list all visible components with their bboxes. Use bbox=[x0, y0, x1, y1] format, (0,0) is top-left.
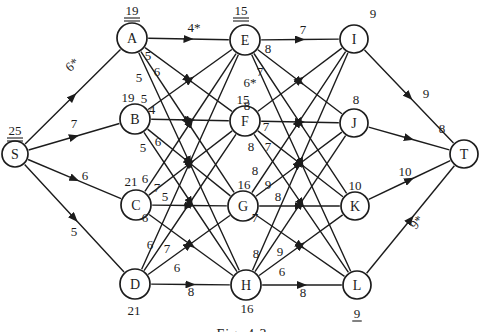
edge-D-G bbox=[148, 215, 230, 274]
labels-layer: 6*7654*5655465675667687876*8778898789689… bbox=[7, 3, 445, 321]
node-letter-L: L bbox=[353, 278, 362, 293]
node-value-L: 9 bbox=[354, 306, 361, 321]
node-letter-A: A bbox=[127, 31, 138, 46]
edge-label-E-K: 7 bbox=[257, 64, 264, 79]
edge-label-B-G: 6 bbox=[155, 134, 162, 149]
edge-F-J bbox=[261, 121, 339, 122]
edge-label-S-D: 5 bbox=[71, 224, 78, 239]
edge-label-D-H: 8 bbox=[188, 284, 195, 299]
node-letter-S: S bbox=[11, 147, 19, 162]
edge-label-H-L: 8 bbox=[300, 285, 307, 300]
edge-label-E-J: 8 bbox=[265, 41, 272, 56]
node-letter-E: E bbox=[241, 33, 250, 48]
edge-C-G bbox=[152, 205, 227, 206]
edges-layer bbox=[25, 38, 455, 285]
edge-label-A-H: 5 bbox=[136, 70, 143, 85]
edge-label-C-H: 6 bbox=[142, 210, 149, 225]
node-value-S: 25 bbox=[9, 123, 22, 138]
node-value-C: 21 bbox=[125, 174, 138, 189]
node-value-A: 19 bbox=[126, 3, 139, 18]
edge-B-F bbox=[151, 119, 229, 120]
edge-label-C-E: 6 bbox=[142, 171, 149, 186]
node-letter-C: C bbox=[131, 198, 140, 213]
edge-label-F-K: 7 bbox=[265, 139, 272, 154]
edge-label-D-E: 6 bbox=[147, 237, 154, 252]
node-letter-I: I bbox=[352, 32, 357, 47]
node-value-F: 15 bbox=[237, 92, 250, 107]
edge-label-D-G: 6 bbox=[174, 260, 181, 275]
edge-label-G-K: 8 bbox=[275, 189, 282, 204]
edge-label-E-I: 7 bbox=[300, 22, 307, 37]
node-value-I: 9 bbox=[370, 6, 377, 21]
edge-label-B-H: 5 bbox=[140, 140, 147, 155]
node-letter-H: H bbox=[241, 278, 251, 293]
edge-label-E-L: 6* bbox=[244, 75, 257, 90]
node-value-J: 8 bbox=[353, 92, 360, 107]
edge-label-F-J: 7 bbox=[263, 119, 270, 134]
node-letter-D: D bbox=[130, 277, 140, 292]
graph-canvas: SABCDEFGHIJKLT 6*7654*565546567566768787… bbox=[0, 0, 484, 332]
edge-label-G-J: 9 bbox=[265, 177, 272, 192]
edge-label-S-A: 6* bbox=[62, 55, 82, 75]
node-value-E: 15 bbox=[235, 3, 248, 18]
node-value-B: 19 bbox=[122, 90, 135, 105]
edge-E-I bbox=[261, 39, 339, 40]
edge-label-C-G: 5 bbox=[162, 189, 169, 204]
node-value-D: 21 bbox=[128, 303, 141, 318]
edge-label-A-E: 4* bbox=[188, 20, 201, 35]
edge-label-S-B: 7 bbox=[71, 116, 78, 131]
edge-S-D bbox=[25, 164, 124, 272]
edge-label-J-T: 8 bbox=[439, 121, 446, 136]
edge-label-K-T: 10 bbox=[399, 164, 412, 179]
edge-label-D-F: 7 bbox=[164, 241, 171, 256]
node-letter-G: G bbox=[238, 199, 248, 214]
node-letter-J: J bbox=[351, 116, 357, 131]
edge-H-I bbox=[253, 53, 348, 270]
node-value-H: 16 bbox=[241, 301, 255, 316]
edge-label-G-I: 8 bbox=[252, 163, 259, 178]
edge-label-H-J: 9 bbox=[277, 244, 284, 259]
edge-label-I-T: 9 bbox=[423, 86, 430, 101]
node-letter-T: T bbox=[460, 147, 469, 162]
edge-label-B-E: 5 bbox=[141, 91, 148, 106]
edge-label-C-F: 7 bbox=[154, 180, 161, 195]
figure-panel: SABCDEFGHIJKLT 6*7654*565546567566768787… bbox=[0, 0, 484, 332]
edge-label-H-I: 8 bbox=[253, 246, 260, 261]
edge-J-T bbox=[369, 127, 450, 150]
edge-A-E bbox=[148, 38, 229, 39]
edge-label-S-C: 6 bbox=[82, 168, 89, 183]
edge-S-C bbox=[28, 160, 121, 199]
edge-E-J bbox=[258, 50, 342, 114]
edge-label-B-F: 4 bbox=[149, 102, 156, 117]
edge-label-H-K: 6 bbox=[279, 264, 286, 279]
edge-label-A-G: 6 bbox=[154, 64, 161, 79]
edge-label-L-T: 9* bbox=[407, 212, 427, 232]
node-value-K: 10 bbox=[349, 178, 362, 193]
node-value-G: 16 bbox=[238, 177, 252, 192]
edge-label-F-L: 8 bbox=[248, 139, 255, 154]
node-letter-K: K bbox=[350, 199, 360, 214]
figure-caption: Fig. 4.3 bbox=[0, 327, 484, 332]
node-letter-B: B bbox=[130, 112, 139, 127]
edge-label-A-F: 5 bbox=[145, 48, 152, 63]
edge-label-G-L: 7 bbox=[252, 210, 259, 225]
node-letter-F: F bbox=[241, 114, 249, 129]
